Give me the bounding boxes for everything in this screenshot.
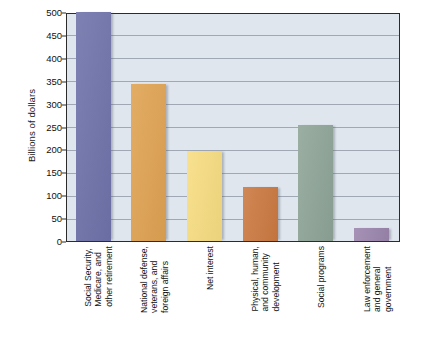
x-axis-category-label-text: Net interest	[205, 246, 215, 290]
x-axis-category-label-line: Physical, human,	[250, 246, 260, 311]
x-axis-category-label-line: National defense,	[139, 246, 149, 313]
y-tick-label: 0	[36, 237, 62, 247]
y-tick-label: 450	[36, 31, 62, 41]
x-axis-category-label-text: National defense,veterans, andforeign af…	[139, 246, 170, 313]
x-axis-category-label-line: Medicare, and	[94, 246, 104, 307]
x-axis-category-label-line: Social programs	[316, 246, 326, 308]
x-axis-category-label-line: other retirement	[104, 246, 114, 307]
bar	[187, 151, 222, 241]
y-tick-label: 150	[36, 168, 62, 178]
y-tick-label: 350	[36, 77, 62, 87]
y-tick-label: 100	[36, 191, 62, 201]
x-axis-category-label-line: development	[271, 246, 281, 311]
x-axis-category-label-line: veterans, and	[150, 246, 160, 313]
x-axis-category-label-line: foreign affairs	[160, 246, 170, 313]
x-axis-category-label-text: Social programs	[316, 246, 326, 308]
y-tick-label: 250	[36, 123, 62, 133]
y-tick-label: 200	[36, 145, 62, 155]
bar	[131, 84, 166, 241]
x-axis-category-label: Law enforcementand generalgovernment	[344, 246, 400, 337]
x-axis-category-label: Net interest	[177, 246, 233, 337]
y-tick-label: 50	[36, 214, 62, 224]
x-axis-category-label-line: and general	[372, 246, 382, 312]
bars-layer	[67, 14, 399, 241]
x-axis-category-label-text: Social Security,Medicare, andother retir…	[83, 246, 114, 307]
y-tick-label: 300	[36, 100, 62, 110]
x-axis-category-label-line: Law enforcement	[362, 246, 372, 312]
bar	[354, 228, 389, 241]
x-axis-category-label-text: Physical, human,and communitydevelopment	[250, 246, 281, 311]
x-axis-category-label: Physical, human,and communitydevelopment	[233, 246, 289, 337]
x-axis-category-labels: Social Security,Medicare, andother retir…	[66, 246, 400, 337]
y-tick-label: 500	[36, 8, 62, 18]
x-axis-category-label: Social programs	[289, 246, 345, 337]
bar	[298, 125, 333, 241]
bar	[243, 187, 278, 241]
x-axis-category-label-text: Law enforcementand generalgovernment	[362, 246, 393, 312]
x-axis-category-label: Social Security,Medicare, andother retir…	[66, 246, 122, 337]
y-tick-label: 400	[36, 54, 62, 64]
x-axis-category-label: National defense,veterans, andforeign af…	[122, 246, 178, 337]
y-axis-tick-labels: 050100150200250300350400450500	[36, 13, 62, 242]
x-axis-category-label-line: and community	[261, 246, 271, 311]
bar-chart-figure: Billions of dollars 05010015020025030035…	[0, 0, 422, 337]
x-axis-category-label-line: Net interest	[205, 246, 215, 290]
plot-area	[66, 13, 400, 242]
x-axis-category-label-line: Social Security,	[83, 246, 93, 307]
bar	[76, 12, 111, 241]
x-axis-category-label-line: government	[383, 246, 393, 312]
